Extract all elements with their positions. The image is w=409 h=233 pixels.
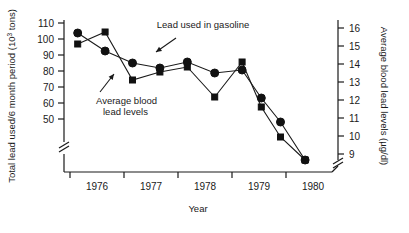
right-tick-label: 16	[349, 23, 361, 34]
left-tick-label: 60	[43, 98, 55, 109]
right-tick-label: 14	[349, 59, 361, 70]
left-y-axis: 110 100 90 80 70 60 50	[37, 18, 69, 173]
data-point-circle	[129, 59, 137, 67]
data-point-circle	[277, 118, 285, 126]
left-axis-title: Total lead used/6 month period (103 tons…	[6, 9, 18, 183]
data-point-circle	[101, 47, 109, 55]
right-axis-title-text: Average blood lead levels (µg/dl)	[379, 27, 390, 165]
left-axis-title-tail: tons)	[6, 9, 17, 33]
x-tick-label: 1979	[248, 181, 271, 192]
x-tick-label: 1976	[86, 181, 109, 192]
right-tick-label: 15	[349, 41, 361, 52]
right-tick-label: 11	[349, 113, 360, 124]
data-point-circle	[257, 94, 265, 102]
chart-annotation: Average blood	[96, 95, 157, 106]
chart-svg: 110 100 90 80 70 60 50 Total lead used/6…	[0, 0, 409, 233]
data-point-square	[75, 41, 81, 47]
svg-text:Total lead used/6 month period: Total lead used/6 month period (103 tons…	[6, 9, 18, 183]
data-point-square	[102, 29, 108, 35]
data-point-square	[278, 134, 284, 140]
data-point-circle	[156, 64, 164, 72]
left-tick-label: 70	[43, 82, 55, 93]
chart-annotation: lead levels	[103, 106, 148, 117]
left-tick-label: 110	[38, 18, 54, 29]
right-tick-label: 13	[349, 77, 361, 88]
chart-annotation: Lead used in gasoline	[157, 19, 249, 30]
right-tick-label: 12	[349, 95, 361, 106]
x-tick-label: 1980	[302, 181, 325, 192]
chart-figure: 110 100 90 80 70 60 50 Total lead used/6…	[0, 0, 409, 233]
annotation-arrow-icon	[100, 74, 114, 92]
left-axis-title-main: Total lead used/6 month period (10	[6, 37, 17, 183]
x-tick-label: 1977	[140, 181, 163, 192]
data-point-square	[130, 77, 136, 83]
data-point-circle	[211, 69, 219, 77]
data-point-circle	[183, 58, 191, 66]
left-tick-label: 80	[43, 66, 55, 77]
left-tick-label: 50	[43, 114, 55, 125]
annotation-arrow-icon	[156, 38, 176, 52]
data-point-square	[212, 94, 218, 100]
x-axis-title: Year	[188, 203, 207, 214]
data-point-circle	[301, 156, 309, 164]
right-axis-title: Average blood lead levels (µg/dl)	[379, 27, 390, 165]
x-tick-label: 1978	[194, 181, 217, 192]
annotation-layer: Lead used in gasolineAverage bloodlead l…	[96, 19, 249, 117]
data-point-circle	[74, 29, 82, 37]
left-tick-label: 90	[43, 50, 55, 61]
left-tick-label: 100	[37, 34, 54, 45]
right-tick-label: 10	[349, 131, 361, 142]
right-y-axis: 16 15 14 13 12 11 10 9	[333, 20, 361, 168]
data-point-square	[258, 104, 264, 110]
data-point-circle	[238, 66, 246, 74]
data-point-square	[239, 59, 245, 65]
right-tick-label: 9	[349, 149, 355, 160]
x-axis: 1976 1977 1978 1979 1980 Year	[64, 166, 338, 214]
